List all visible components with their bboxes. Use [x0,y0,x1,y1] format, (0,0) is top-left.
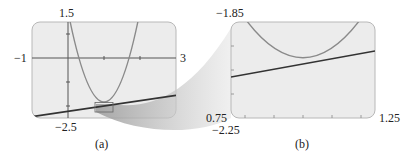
panel-b-y-min-label: −2.25 [212,124,240,136]
panel-b-frame [231,22,375,118]
panel-a-y-min-label: −2.5 [55,121,77,133]
panel-b-caption: (b) [295,138,309,150]
panel-b-y-max-label: −1.85 [216,7,244,19]
figure-canvas [0,0,409,160]
panel-a-caption: (a) [95,138,108,150]
panel-a-x-max-label: 3 [180,52,186,64]
panel-a-x-min-label: −1 [14,52,27,64]
panel-a-y-max-label: 1.5 [59,7,74,19]
panel-b-x-max-label: 1.25 [379,112,400,124]
